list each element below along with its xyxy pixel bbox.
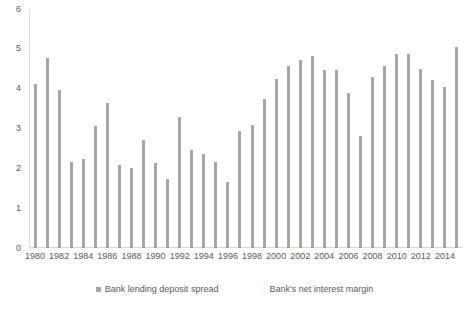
y-axis-tick-labels: 0123456	[0, 0, 27, 310]
y-axis-tick-label: 0	[1, 244, 21, 253]
bars-layer	[29, 9, 463, 248]
y-axis-tick-label: 6	[1, 5, 21, 14]
bar	[371, 77, 374, 248]
bar	[323, 70, 326, 248]
x-axis-tick-label: 1994	[191, 251, 217, 261]
y-axis-tick-label: 1	[1, 204, 21, 213]
bar	[58, 90, 61, 248]
bar	[443, 87, 446, 248]
bar	[347, 93, 350, 248]
x-axis-tick-label: 1988	[118, 251, 144, 261]
bar	[34, 84, 37, 249]
bar	[118, 165, 121, 248]
bar	[130, 168, 133, 248]
legend-label: Bank's net interest margin	[269, 284, 373, 294]
bar	[46, 58, 49, 248]
bar	[395, 54, 398, 248]
bar	[70, 162, 73, 248]
bar	[166, 179, 169, 248]
x-axis-tick-label: 1984	[70, 251, 96, 261]
bar	[94, 126, 97, 248]
x-axis-tick-label: 2002	[287, 251, 313, 261]
bar	[202, 154, 205, 248]
x-axis-tick-label: 1998	[239, 251, 265, 261]
x-axis-tick-label: 2014	[432, 251, 458, 261]
x-axis-tick-label: 2000	[263, 251, 289, 261]
bar	[238, 131, 241, 248]
y-axis-tick-label: 3	[1, 124, 21, 133]
y-axis-tick-label: 4	[1, 84, 21, 93]
x-axis-tick-label: 2010	[384, 251, 410, 261]
x-axis-tick-label: 2012	[408, 251, 434, 261]
bar	[455, 47, 458, 248]
bar	[359, 136, 362, 248]
x-axis-tick-label: 1992	[167, 251, 193, 261]
bar	[431, 80, 434, 248]
bar	[190, 150, 193, 248]
bar	[299, 60, 302, 248]
bar	[142, 140, 145, 248]
x-axis-tick-labels: 1980198219841986198819901992199419961998…	[29, 251, 463, 265]
bar	[226, 182, 229, 248]
x-axis-tick-label: 2006	[335, 251, 361, 261]
bar	[419, 69, 422, 248]
x-axis-tick-label: 2008	[360, 251, 386, 261]
legend-swatch-icon	[96, 287, 101, 292]
bar	[383, 66, 386, 248]
bar	[154, 163, 157, 248]
bar	[407, 54, 410, 248]
bar	[263, 99, 266, 248]
chart-legend: Bank lending deposit spread Bank's net i…	[0, 282, 469, 296]
legend-label: Bank lending deposit spread	[105, 284, 219, 294]
bar	[178, 117, 181, 248]
x-axis-tick-label: 1982	[46, 251, 72, 261]
legend-entry-banks-net-interest-margin: Bank's net interest margin	[260, 284, 373, 294]
bar	[335, 70, 338, 248]
y-axis-tick-label: 5	[1, 44, 21, 53]
x-axis-tick-label: 2004	[311, 251, 337, 261]
bar	[275, 79, 278, 248]
legend-entry-bank-lending-deposit-spread: Bank lending deposit spread	[96, 284, 219, 294]
bar	[82, 159, 85, 248]
legend-swatch-icon	[260, 287, 265, 292]
x-axis-tick-label: 1980	[22, 251, 48, 261]
bar	[251, 125, 254, 248]
bar-chart: 0123456 19801982198419861988199019921994…	[0, 0, 469, 310]
bar	[214, 162, 217, 248]
x-axis-tick-label: 1990	[143, 251, 169, 261]
y-axis-tick-label: 2	[1, 164, 21, 173]
bar	[106, 103, 109, 248]
x-axis-tick-label: 1996	[215, 251, 241, 261]
bar	[311, 56, 314, 248]
bar	[287, 66, 290, 248]
x-axis-tick-label: 1986	[94, 251, 120, 261]
